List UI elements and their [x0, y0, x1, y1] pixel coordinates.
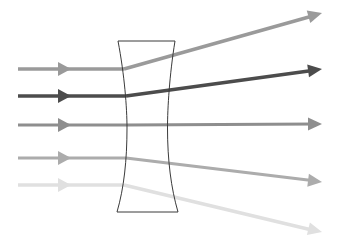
ray-3-outgoing-segment	[127, 124, 316, 125]
optics-ray-diagram	[0, 0, 339, 251]
diagram-canvas	[0, 0, 339, 251]
